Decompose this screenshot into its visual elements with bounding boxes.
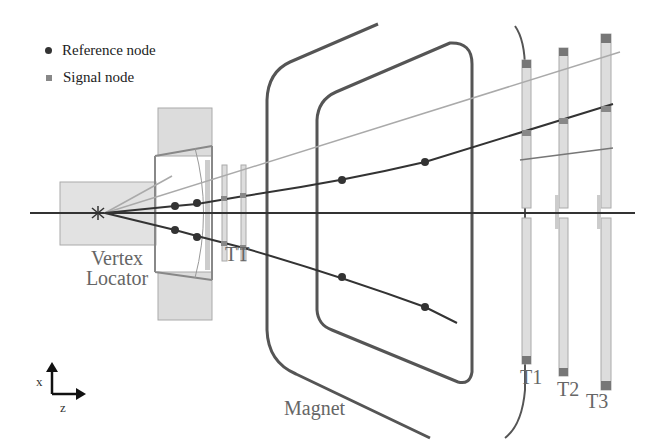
label-vertex-line2: Locator <box>67 268 167 288</box>
axis-label-x: x <box>36 374 43 390</box>
rich-window <box>205 160 210 270</box>
legend: Reference node Signal node <box>45 37 156 91</box>
label-t3: T3 <box>586 391 608 411</box>
label-tt: TT <box>225 244 249 264</box>
square-icon <box>46 75 52 81</box>
circle-icon <box>45 47 52 54</box>
label-t1: T1 <box>520 367 542 387</box>
rich-upper-block <box>158 108 212 156</box>
legend-label: Signal node <box>63 69 134 86</box>
signal-nodes <box>221 106 611 250</box>
t3-station-lower <box>601 218 611 390</box>
t3-station-upper <box>601 34 611 208</box>
axis-label-z: z <box>60 400 66 416</box>
legend-item-signal: Signal node <box>45 64 156 91</box>
legend-item-reference: Reference node <box>45 37 156 64</box>
t2-station-lower <box>559 218 568 376</box>
label-t2: T2 <box>557 379 579 399</box>
label-vertex-line1: Vertex <box>67 248 167 268</box>
legend-label: Reference node <box>62 42 156 59</box>
t1-station-lower <box>522 218 531 364</box>
label-vertex-locator: Vertex Locator <box>67 248 167 288</box>
axis-arrows-icon <box>46 362 86 400</box>
label-magnet: Magnet <box>284 398 345 418</box>
t2-station-upper <box>559 48 568 208</box>
